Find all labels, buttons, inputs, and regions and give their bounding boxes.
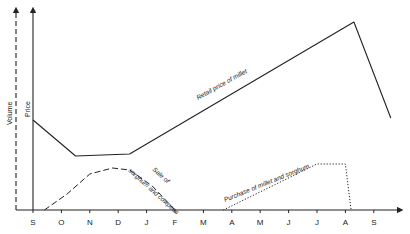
x-tick-label: S [371,218,376,227]
x-tick-label: J [145,218,149,227]
x-tick-label: A [229,218,235,227]
x-tick-label: M [200,218,207,227]
chart: Volume Price SONDJFMAMJJAS Retail price … [0,0,410,234]
x-tick-label: D [115,218,121,227]
x-tick-label: J [287,218,291,227]
annotation-purchase: Purchase of millet and sorghum [223,162,311,204]
x-tick-label: O [58,218,64,227]
x-ticks: SONDJFMAMJJAS [30,210,376,227]
x-tick-label: M [257,218,264,227]
x-tick-label: J [315,218,319,227]
x-tick-label: S [30,218,35,227]
price-axis-label: Price [24,101,31,117]
annotation-sale-of: Sale of [151,166,172,186]
annotation-sorghum-cowpeas: sorghum and cowpeas [127,167,182,217]
x-tick-label: N [87,218,93,227]
annotation-retail-price: Retail price of millet [195,67,250,102]
x-tick-label: A [343,218,349,227]
series-group [33,22,391,210]
x-tick-label: F [173,218,178,227]
volume-axis-label: Volume [6,102,13,125]
